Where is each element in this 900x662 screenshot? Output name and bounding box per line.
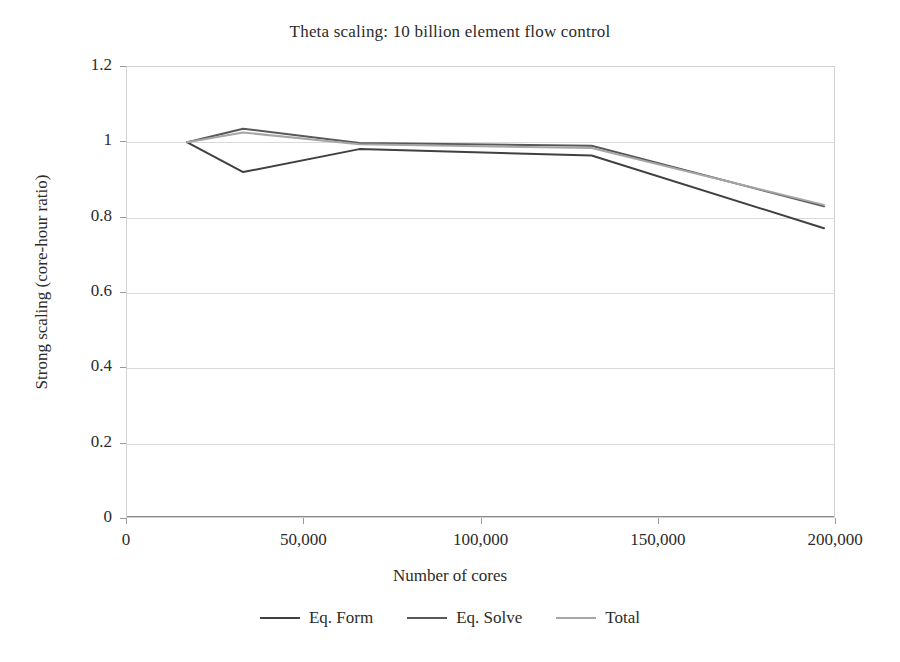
y-tick-mark xyxy=(120,443,126,444)
x-tick-mark xyxy=(835,518,836,524)
chart-title: Theta scaling: 10 billion element flow c… xyxy=(0,22,900,42)
x-tick-label: 200,000 xyxy=(807,530,862,550)
x-tick-mark xyxy=(126,518,127,524)
x-tick-label: 100,000 xyxy=(453,530,508,550)
y-tick-label: 0.8 xyxy=(40,206,112,226)
x-tick-label: 150,000 xyxy=(630,530,685,550)
x-axis-title: Number of cores xyxy=(0,566,900,586)
legend-line-swatch xyxy=(407,617,447,619)
legend-item[interactable]: Total xyxy=(556,608,640,628)
series-lines xyxy=(127,67,836,519)
x-tick-mark xyxy=(481,518,482,524)
y-tick-label: 1 xyxy=(40,130,112,150)
legend-line-swatch xyxy=(260,617,300,619)
series-line-eq-solve xyxy=(187,129,824,207)
x-tick-mark xyxy=(303,518,304,524)
legend-line-swatch xyxy=(556,617,596,619)
y-tick-mark xyxy=(120,367,126,368)
plot-area xyxy=(126,66,835,518)
legend-item[interactable]: Eq. Solve xyxy=(407,608,522,628)
chart-legend: Eq. FormEq. SolveTotal xyxy=(0,608,900,628)
y-tick-label: 1.2 xyxy=(40,55,112,75)
legend-item[interactable]: Eq. Form xyxy=(260,608,373,628)
y-tick-label: 0.4 xyxy=(40,356,112,376)
chart-root: Theta scaling: 10 billion element flow c… xyxy=(0,0,900,662)
legend-label: Eq. Form xyxy=(309,608,373,628)
y-tick-label: 0.6 xyxy=(40,281,112,301)
y-tick-mark xyxy=(120,292,126,293)
y-tick-label: 0.2 xyxy=(40,432,112,452)
y-tick-mark xyxy=(120,141,126,142)
series-line-total xyxy=(187,133,824,205)
y-tick-mark xyxy=(120,66,126,67)
y-tick-mark xyxy=(120,217,126,218)
series-line-eq-form xyxy=(187,142,824,228)
x-tick-label: 50,000 xyxy=(280,530,327,550)
legend-label: Total xyxy=(605,608,640,628)
x-tick-label: 0 xyxy=(122,530,131,550)
legend-label: Eq. Solve xyxy=(456,608,522,628)
x-tick-mark xyxy=(658,518,659,524)
y-tick-label: 0 xyxy=(40,507,112,527)
